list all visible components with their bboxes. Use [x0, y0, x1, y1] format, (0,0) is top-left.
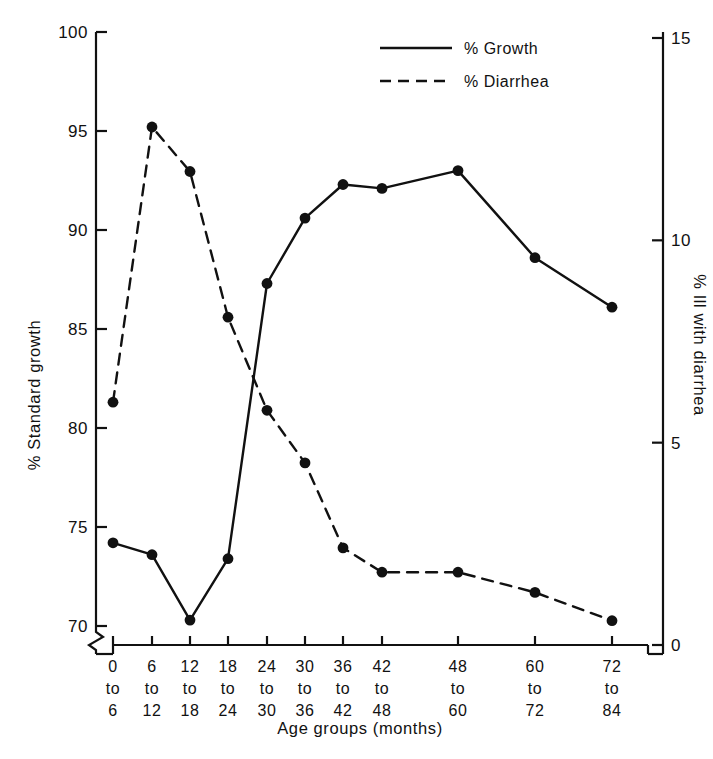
data-point — [300, 213, 311, 224]
chart-figure: 707580859095100 051015 0to66to1212to1818… — [0, 0, 713, 759]
x-tick-label: 24to30 — [258, 658, 277, 719]
right-axis-tick-labels: 051015 — [671, 29, 691, 655]
series-line — [113, 171, 612, 620]
right-tick-label: 5 — [671, 434, 681, 453]
data-point — [262, 278, 273, 289]
data-point — [607, 615, 618, 626]
x-axis-ticks — [113, 636, 612, 645]
x-tick-label: 42to48 — [373, 658, 392, 719]
right-tick-label: 15 — [671, 29, 691, 48]
x-axis-title: Age groups (months) — [277, 719, 442, 737]
right-axis-title: % Ill with diarrhea — [691, 274, 709, 416]
data-point — [377, 183, 388, 194]
data-point — [223, 553, 234, 564]
legend-growth-label: % Growth — [464, 40, 538, 57]
x-tick-label: 0to6 — [106, 658, 120, 719]
left-tick-label: 70 — [68, 617, 88, 636]
series-growth — [108, 165, 618, 625]
left-tick-label: 75 — [68, 518, 88, 537]
chart-legend: % Growth % Diarrhea — [380, 40, 549, 90]
series-line — [113, 127, 612, 621]
data-point — [185, 166, 196, 177]
x-tick-label: 6to12 — [143, 658, 162, 719]
data-point — [453, 567, 464, 578]
x-tick-label: 36to42 — [334, 658, 353, 719]
chart-svg: 707580859095100 051015 0to66to1212to1818… — [0, 0, 713, 759]
left-tick-label: 95 — [68, 122, 88, 141]
left-axis-title: % Standard growth — [25, 320, 43, 471]
left-tick-label: 85 — [68, 320, 88, 339]
x-tick-label: 18to24 — [219, 658, 238, 719]
x-tick-label: 48to60 — [449, 658, 468, 719]
left-axis-tick-labels: 707580859095100 — [58, 23, 88, 636]
data-point — [147, 549, 158, 560]
data-point — [338, 543, 349, 554]
left-axis-ticks — [96, 32, 107, 626]
x-tick-label: 30to36 — [296, 658, 315, 719]
x-tick-label: 60to72 — [526, 658, 545, 719]
left-tick-label: 100 — [58, 23, 88, 42]
data-point — [377, 567, 388, 578]
data-point — [530, 252, 541, 263]
left-tick-label: 90 — [68, 221, 88, 240]
data-point — [108, 537, 119, 548]
x-tick-label: 72to84 — [603, 658, 622, 719]
x-axis-tick-labels: 0to66to1212to1818to2424to3030to3636to424… — [106, 658, 622, 719]
series-diarrhea — [108, 122, 618, 626]
data-point — [338, 179, 349, 190]
right-tick-label: 0 — [671, 636, 681, 655]
data-point — [530, 587, 541, 598]
data-point — [300, 458, 311, 469]
data-point — [108, 397, 119, 408]
x-tick-label: 12to18 — [181, 658, 200, 719]
axis-break-icon — [89, 629, 103, 654]
data-point — [223, 312, 234, 323]
data-point — [185, 615, 196, 626]
data-point — [453, 165, 464, 176]
axis-lines — [89, 32, 663, 654]
left-tick-label: 80 — [68, 419, 88, 438]
data-point — [262, 405, 273, 416]
right-axis-ticks — [652, 38, 663, 645]
data-point — [607, 302, 618, 313]
data-point — [147, 122, 158, 133]
right-tick-label: 10 — [671, 231, 691, 250]
legend-diarrhea-label: % Diarrhea — [464, 73, 549, 90]
